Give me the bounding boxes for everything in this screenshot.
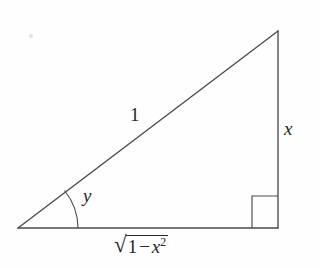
adjacent-side-label: √ 1−x2 bbox=[114, 232, 168, 255]
angle-arc bbox=[65, 191, 79, 229]
radicand-group: 1−x2 bbox=[126, 235, 169, 256]
right-angle-marker bbox=[252, 196, 278, 228]
paper-speck bbox=[29, 34, 33, 38]
angle-label: y bbox=[83, 186, 91, 205]
opposite-side-label: x bbox=[284, 119, 292, 138]
hypotenuse-line bbox=[18, 31, 278, 228]
triangle-diagram: 1 x y √ 1−x2 bbox=[0, 0, 320, 268]
triangle-figure-svg bbox=[0, 0, 320, 268]
radicand-operator: − bbox=[137, 236, 152, 257]
hypotenuse-label: 1 bbox=[130, 105, 140, 124]
radicand-numeral: 1 bbox=[128, 236, 138, 257]
radicand-exponent: 2 bbox=[160, 236, 166, 249]
